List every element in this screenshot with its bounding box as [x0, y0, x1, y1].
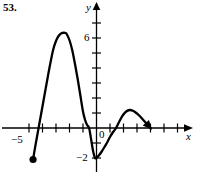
function-curve — [33, 33, 150, 160]
y-axis — [93, 2, 101, 172]
graph-figure — [0, 0, 200, 178]
y-axis-label: y — [86, 2, 91, 13]
problem-number: 53. — [3, 1, 17, 13]
origin-label: 0 — [99, 129, 105, 140]
x-axis-label: x — [186, 131, 191, 142]
closed-endpoint-dot — [29, 156, 36, 163]
y-tick-label-6: 6 — [84, 32, 90, 43]
y-tick-label-neg2: −2 — [76, 152, 88, 163]
x-tick-label-neg5: −5 — [11, 134, 23, 145]
